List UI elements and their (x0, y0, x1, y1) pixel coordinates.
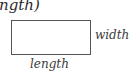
width-label: width (95, 28, 129, 42)
formula-fragment: ngth) (0, 0, 40, 14)
length-label: length (30, 57, 69, 71)
rectangle-shape (11, 20, 91, 55)
